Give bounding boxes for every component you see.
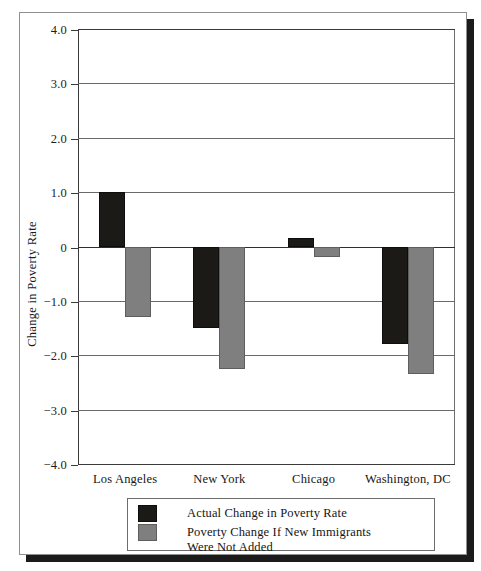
y-axis-tick-mark	[71, 248, 78, 249]
gridline: −3.0	[78, 410, 455, 411]
x-axis-category-label: Washington, DC	[365, 472, 451, 487]
gridline: −2.0	[78, 355, 455, 356]
bar-no-immigrants	[219, 247, 245, 369]
gray-square-swatch	[138, 524, 157, 541]
bar-no-immigrants	[314, 247, 340, 258]
y-axis-tick-label: −3.0	[44, 403, 67, 418]
y-axis-tick-mark	[71, 193, 78, 194]
y-axis-tick-mark	[71, 465, 78, 466]
y-axis-tick-label: −4.0	[44, 458, 67, 473]
legend-label-actual: Actual Change in Poverty Rate	[187, 505, 347, 521]
gridline: 2.0	[78, 138, 455, 139]
gridline: 3.0	[78, 83, 455, 84]
bar-actual-change	[193, 247, 219, 329]
y-axis-tick-mark	[71, 356, 78, 357]
bar-actual-change	[99, 192, 125, 246]
bar-no-immigrants	[408, 247, 434, 375]
black-square-swatch	[138, 505, 157, 522]
y-axis-tick-label: 4.0	[51, 23, 67, 38]
chart-legend: Actual Change in Poverty Rate Poverty Ch…	[127, 498, 435, 551]
gridline: 1.0	[78, 192, 455, 193]
y-axis-tick-label: −1.0	[44, 294, 67, 309]
x-axis-category-label: Los Angeles	[93, 472, 157, 487]
legend-label-no-immigrants: Poverty Change If New Immigrants Were No…	[187, 524, 371, 554]
legend-entry-actual: Actual Change in Poverty Rate	[138, 505, 347, 522]
gridline: 4.0	[78, 29, 455, 30]
y-axis-tick-mark	[71, 302, 78, 303]
y-axis-tick-mark	[71, 84, 78, 85]
bar-actual-change	[382, 247, 408, 345]
y-axis-tick-label: 2.0	[51, 131, 67, 146]
y-axis-tick-mark	[71, 30, 78, 31]
x-axis-category-label: New York	[193, 472, 245, 487]
gridline: −4.0	[78, 464, 455, 465]
x-axis-category-label: Chicago	[292, 472, 335, 487]
y-axis-tick-label: 0	[61, 240, 67, 255]
y-axis-tick-label: 1.0	[51, 186, 67, 201]
bar-actual-change	[288, 238, 314, 246]
plot-area: 4.03.02.01.00−1.0−2.0−3.0−4.0 Los Angele…	[78, 29, 455, 464]
bar-no-immigrants	[125, 247, 151, 318]
y-axis-tick-label: 3.0	[51, 77, 67, 92]
y-axis-tick-label: −2.0	[44, 349, 67, 364]
y-axis-tick-mark	[71, 139, 78, 140]
y-axis-title: Change in Poverty Rate	[25, 221, 40, 347]
legend-entry-no-immigrants: Poverty Change If New Immigrants Were No…	[138, 524, 371, 554]
figure-card: Change in Poverty Rate 4.03.02.01.00−1.0…	[19, 12, 467, 555]
y-axis-tick-mark	[71, 411, 78, 412]
